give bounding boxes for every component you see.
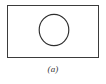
figure-caption: (a) — [0, 64, 106, 75]
figure-panel: (a) — [0, 0, 106, 84]
rectangle-outline — [7, 5, 99, 58]
